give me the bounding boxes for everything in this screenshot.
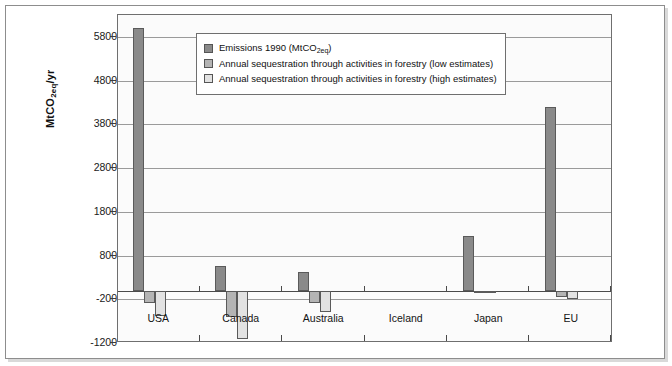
bar-japan-series-1: [474, 291, 485, 293]
legend-label-emissions-pre: Emissions 1990 (MtCO: [219, 42, 317, 53]
legend-swatch-low-estimates: [204, 59, 213, 68]
legend-label-low-estimates: Annual sequestration through activities …: [219, 58, 493, 69]
legend-item-low-estimates: Annual sequestration through activities …: [204, 58, 498, 69]
x-label-japan: Japan: [447, 312, 530, 334]
x-label-australia: Australia: [282, 312, 365, 334]
y-tick-mark: [110, 298, 116, 299]
legend-label-emissions-sub: 2eq: [317, 47, 329, 54]
legend-label-emissions-post: ): [328, 42, 331, 53]
bar-usa-series-0: [133, 28, 144, 290]
bar-eu-series-0: [545, 107, 556, 291]
bar-eu-series-2: [567, 291, 578, 300]
y-axis: 58004800380028001800800-200-1200: [55, 14, 117, 342]
y-tick-mark: [110, 80, 116, 81]
y-tick-mark: [110, 167, 116, 168]
y-tick-mark: [110, 36, 116, 37]
x-label-iceland: Iceland: [365, 312, 448, 334]
legend-item-high-estimates: Annual sequestration through activities …: [204, 73, 498, 84]
bar-japan-series-0: [463, 236, 474, 291]
x-label-eu: EU: [530, 312, 613, 334]
legend-swatch-emissions: [204, 44, 213, 53]
legend-swatch-high-estimates: [204, 74, 213, 83]
bar-usa-series-1: [144, 291, 155, 303]
chart-legend: Emissions 1990 (MtCO2eq) Annual sequestr…: [196, 33, 506, 95]
bar-australia-series-2: [320, 291, 331, 313]
y-tick-mark: [110, 342, 116, 343]
bar-eu-series-1: [556, 291, 567, 298]
y-tick-mark: [110, 255, 116, 256]
chart-figure: MtCO2eq/yr 58004800380028001800800-200-1…: [0, 0, 672, 366]
legend-label-emissions: Emissions 1990 (MtCO2eq): [219, 42, 332, 54]
bar-australia-series-1: [309, 291, 320, 303]
y-tick-mark: [110, 211, 116, 212]
bar-japan-series-2: [485, 291, 496, 294]
x-label-canada: Canada: [200, 312, 283, 334]
x-axis-labels: USACanadaAustraliaIcelandJapanEU: [117, 312, 612, 334]
bar-australia-series-0: [298, 272, 309, 290]
legend-label-high-estimates: Annual sequestration through activities …: [219, 73, 497, 84]
y-tick-mark: [110, 123, 116, 124]
bar-canada-series-0: [215, 266, 226, 290]
x-label-usa: USA: [117, 312, 200, 334]
legend-item-emissions: Emissions 1990 (MtCO2eq): [204, 42, 498, 54]
